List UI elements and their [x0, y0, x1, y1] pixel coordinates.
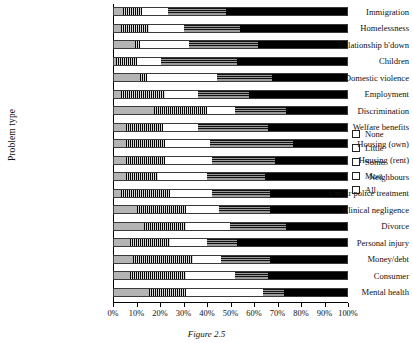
x-tick	[301, 303, 302, 307]
bar-segment-little	[144, 223, 186, 230]
bar-segment-some	[165, 140, 209, 147]
bar-segment-little	[130, 272, 186, 279]
legend-label: Some	[365, 157, 385, 167]
bar-segment-none	[114, 8, 123, 15]
bar-segment-little	[126, 173, 159, 180]
bar-segment-most	[189, 41, 259, 48]
y-axis-title: Problem type	[7, 75, 17, 195]
category-label: Children	[301, 57, 413, 66]
legend-label: All	[365, 185, 376, 195]
stacked-bar-chart: Problem type 0%10%20%30%40%50%60%70%80%9…	[0, 0, 413, 343]
bar-segment-some	[137, 58, 160, 65]
legend-swatch-some-icon	[352, 158, 360, 166]
legend-item-all[interactable]: All	[352, 183, 412, 197]
category-label: Relationship b'down	[301, 41, 413, 50]
category-label: Clinical negligence	[301, 206, 413, 215]
bar-segment-most	[235, 107, 286, 114]
bar-segment-none	[114, 173, 126, 180]
category-label: Money/debt	[301, 255, 413, 264]
bar-segment-most	[212, 190, 270, 197]
category-label: Employment	[301, 90, 413, 99]
legend-swatch-none-icon	[352, 130, 360, 138]
legend: NoneLittleSomeMostAll	[352, 127, 412, 197]
bar-segment-some	[142, 8, 168, 15]
bar-segment-little	[121, 190, 170, 197]
x-tick	[113, 303, 114, 307]
bar-segment-most	[210, 140, 294, 147]
bar-segment-none	[114, 239, 130, 246]
bar-segment-little	[140, 74, 147, 81]
bar-segment-some	[186, 289, 263, 296]
x-tick	[160, 303, 161, 307]
bar-segment-most	[207, 239, 237, 246]
bar-segment-some	[170, 239, 207, 246]
category-label: Domestic violence	[301, 74, 413, 83]
bar-segment-none	[114, 190, 121, 197]
bar-segment-little	[133, 256, 194, 263]
legend-label: Little	[365, 143, 384, 153]
bar-segment-little	[116, 58, 137, 65]
bar-segment-some	[186, 223, 230, 230]
bar-segment-most	[207, 173, 265, 180]
x-tick	[254, 303, 255, 307]
bar-segment-none	[114, 74, 140, 81]
bar-segment-none	[114, 107, 154, 114]
bar-segment-some	[149, 25, 184, 32]
x-tick	[231, 303, 232, 307]
bar-segment-little	[126, 157, 166, 164]
bar-segment-little	[123, 8, 142, 15]
bar-segment-none	[114, 91, 121, 98]
bar-segment-some	[170, 190, 212, 197]
bar-segment-little	[130, 239, 170, 246]
bar-segment-most	[263, 289, 284, 296]
x-tick	[184, 303, 185, 307]
bar-segment-none	[114, 289, 149, 296]
bar-segment-some	[186, 272, 235, 279]
x-tick	[137, 303, 138, 307]
legend-item-most[interactable]: Most	[352, 169, 412, 183]
bar-segment-most	[198, 91, 249, 98]
bar-segment-most	[184, 25, 240, 32]
category-label: Mental health	[301, 288, 413, 297]
category-label: Homelessness	[301, 24, 413, 33]
x-tick	[207, 303, 208, 307]
figure-caption: Figure 2.5	[0, 329, 413, 339]
bar-segment-most	[161, 58, 238, 65]
bar-segment-none	[114, 41, 135, 48]
legend-item-little[interactable]: Little	[352, 141, 412, 155]
bar-segment-some	[193, 256, 221, 263]
bar-segment-little	[126, 140, 166, 147]
bar-segment-most	[168, 8, 226, 15]
bar-segment-some	[158, 173, 207, 180]
bar-segment-little	[121, 25, 149, 32]
x-tick-label: 100%	[331, 309, 365, 318]
bar-segment-none	[114, 157, 126, 164]
bar-segment-none	[114, 140, 126, 147]
bar-segment-none	[114, 272, 130, 279]
bar-segment-some	[186, 206, 219, 213]
bar-segment-some	[163, 124, 198, 131]
bar-segment-none	[114, 25, 121, 32]
x-tick	[325, 303, 326, 307]
legend-swatch-most-icon	[352, 172, 360, 180]
legend-item-none[interactable]: None	[352, 127, 412, 141]
bar-segment-most	[221, 256, 270, 263]
category-label: Divorce	[301, 222, 413, 231]
bar-segment-little	[149, 289, 186, 296]
bar-segment-none	[114, 206, 137, 213]
x-tick	[348, 303, 349, 307]
bar-segment-most	[212, 157, 275, 164]
bar-segment-little	[154, 107, 208, 114]
bar-segment-little	[137, 206, 186, 213]
bar-segment-some	[165, 157, 212, 164]
bar-segment-none	[114, 256, 133, 263]
legend-label: Most	[365, 171, 383, 181]
bar-segment-most	[219, 206, 270, 213]
legend-item-some[interactable]: Some	[352, 155, 412, 169]
category-label: Personal injury	[301, 239, 413, 248]
bar-segment-little	[126, 124, 163, 131]
bar-segment-none	[114, 124, 126, 131]
bar-segment-most	[230, 223, 286, 230]
bar-segment-most	[198, 124, 268, 131]
bar-segment-some	[140, 41, 189, 48]
